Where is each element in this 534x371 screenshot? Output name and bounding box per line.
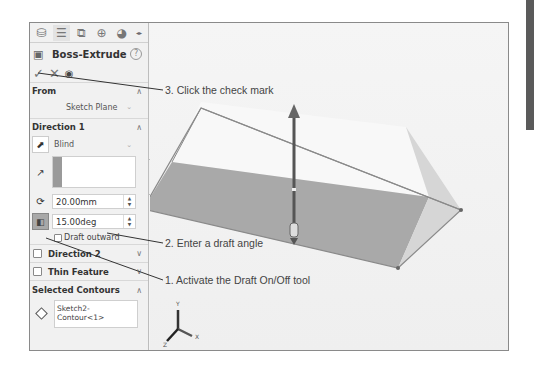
thin-feature-section-header[interactable]: Thin Feature ∨	[30, 263, 148, 281]
collapse-caret-icon[interactable]: ∧	[136, 286, 142, 295]
contour-diamond-icon	[35, 307, 48, 320]
detailed-preview-eye-icon[interactable]: ◉	[65, 68, 74, 79]
draft-angle-input[interactable]: 15.00deg ▲▼	[52, 214, 136, 229]
draft-on-off-button[interactable]: ◧	[32, 213, 49, 230]
reverse-direction-icon[interactable]: ⬈	[32, 136, 49, 153]
solidworks-window: ⛁ ☰ ⧉ ⊕ ◕ ◂▸ ▣ Boss-Extrude ? ✓ ✕ ◉ From…	[29, 22, 509, 351]
expand-caret-icon[interactable]: ∨	[136, 249, 142, 258]
chevron-down-icon: ⌄	[126, 103, 132, 111]
selected-contours-header[interactable]: Selected Contours ∧	[30, 282, 148, 298]
feature-title-row: ▣ Boss-Extrude ?	[30, 43, 148, 65]
draft-icon: ◧	[36, 217, 45, 227]
cancel-button[interactable]: ✕	[49, 66, 60, 81]
end-condition-value: Blind	[54, 140, 74, 149]
direction1-section-header[interactable]: Direction 1 ∧	[30, 119, 148, 135]
from-section: From ∧ Sketch Plane ⌄	[30, 83, 148, 119]
draft-outward-checkbox[interactable]	[54, 234, 62, 242]
depth-input[interactable]: 20.00mm ▲▼	[52, 194, 136, 209]
expand-caret-icon[interactable]: ∨	[136, 267, 142, 276]
vertex	[396, 266, 400, 270]
direction2-checkbox[interactable]	[33, 249, 42, 258]
from-label: From	[32, 86, 56, 96]
appearance-sphere-icon: ◕	[116, 26, 126, 40]
from-value: Sketch Plane	[66, 103, 117, 112]
property-list-icon: ☰	[56, 26, 67, 40]
svg-text:X: X	[195, 333, 199, 340]
depth-spinner[interactable]: ▲▼	[123, 195, 135, 208]
boss-extrude-icon: ▣	[33, 48, 47, 60]
svg-text:Z: Z	[163, 341, 167, 348]
crosshair-icon: ⊕	[96, 26, 106, 40]
feature-manager-tab[interactable]: ⛁	[33, 25, 50, 41]
thin-feature-checkbox[interactable]	[33, 267, 42, 276]
coordinate-triad: Y X Z	[163, 300, 199, 348]
draft-angle-value: 15.00deg	[56, 217, 96, 227]
direction2-label: Direction 2	[48, 249, 101, 259]
page-edge-tab	[526, 0, 534, 130]
depth-row: ⟳ 20.00mm ▲▼	[30, 192, 148, 211]
callout-step-3: 3. Click the check mark	[165, 84, 274, 96]
draft-outward-label: Draft outward	[64, 233, 119, 242]
collapse-caret-icon[interactable]: ∧	[136, 87, 142, 96]
display-manager-tab[interactable]: ◕	[113, 25, 130, 41]
configuration-manager-tab[interactable]: ⧉	[73, 25, 90, 41]
vertex	[459, 208, 463, 212]
manager-tabs: ⛁ ☰ ⧉ ⊕ ◕ ◂▸	[30, 23, 148, 43]
direction-arrow-icon: ↗	[32, 164, 49, 181]
property-manager-tab[interactable]: ☰	[53, 25, 70, 41]
end-condition-row: ⬈ Blind ⌄	[30, 135, 148, 154]
direction2-section-header[interactable]: Direction 2 ∨	[30, 245, 148, 263]
draft-angle-row: ◧ 15.00deg ▲▼	[30, 212, 148, 231]
selection-highlight-bar	[53, 157, 62, 187]
selected-contours-label: Selected Contours	[32, 285, 120, 295]
end-condition-dropdown[interactable]: Blind ⌄	[52, 138, 136, 152]
direction1-section: Direction 1 ∧ ⬈ Blind ⌄ ↗ ⟳ 20.00mm ▲▼	[30, 119, 148, 245]
direction-vector-row: ↗	[30, 154, 148, 190]
collapse-caret-icon[interactable]: ∧	[136, 123, 142, 132]
depth-value: 20.00mm	[56, 197, 97, 207]
direction-selection-box[interactable]	[52, 156, 136, 188]
tab-scroll-arrows[interactable]: ◂▸	[133, 30, 145, 36]
graphics-area[interactable]: Y X Z	[150, 23, 508, 350]
draft-outward-checkbox-row[interactable]: Draft outward	[30, 231, 148, 244]
depth-icon: ⟳	[32, 193, 49, 210]
thin-feature-label: Thin Feature	[48, 267, 109, 277]
help-button[interactable]: ?	[130, 48, 142, 60]
extrude-preview: Y X Z	[150, 23, 509, 351]
feature-tree-icon: ⛁	[36, 26, 46, 40]
contour-list-item[interactable]: Sketch2-Contour<1>	[57, 304, 135, 322]
chevron-down-icon: ⌄	[126, 141, 132, 149]
configuration-icon: ⧉	[77, 26, 86, 40]
feature-title: Boss-Extrude	[52, 49, 130, 60]
selected-contours-list[interactable]: Sketch2-Contour<1>	[54, 300, 138, 328]
ok-checkmark-button[interactable]: ✓	[33, 66, 44, 81]
action-buttons: ✓ ✕ ◉	[30, 65, 148, 83]
from-dropdown[interactable]: Sketch Plane ⌄	[52, 100, 136, 114]
direction1-label: Direction 1	[32, 122, 85, 132]
from-section-header[interactable]: From ∧	[30, 83, 148, 99]
callout-step-1: 1. Activate the Draft On/Off tool	[165, 274, 310, 286]
svg-text:Y: Y	[175, 300, 180, 307]
draft-angle-spinner[interactable]: ▲▼	[123, 215, 135, 228]
selected-contours-row: Sketch2-Contour<1>	[30, 300, 148, 328]
callout-step-2: 2. Enter a draft angle	[165, 237, 263, 249]
dimxpert-manager-tab[interactable]: ⊕	[93, 25, 110, 41]
property-manager-panel: ⛁ ☰ ⧉ ⊕ ◕ ◂▸ ▣ Boss-Extrude ? ✓ ✕ ◉ From…	[30, 23, 149, 350]
